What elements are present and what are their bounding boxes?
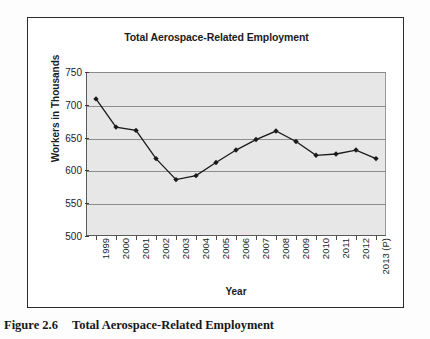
x-tick-label: 2012 <box>360 238 371 259</box>
y-tick-mark <box>85 138 89 139</box>
series-line <box>96 99 376 180</box>
x-tick-mark <box>96 236 97 240</box>
x-tick-mark <box>316 236 317 240</box>
chart-title: Total Aerospace-Related Employment <box>28 31 405 43</box>
y-axis-tick-labels: 500550600650700750 <box>50 72 82 236</box>
x-tick-mark <box>336 236 337 240</box>
figure-caption-text: Total Aerospace-Related Employment <box>72 318 274 332</box>
x-tick-mark <box>376 236 377 240</box>
x-tick-label: 2004 <box>200 238 211 259</box>
y-tick-label: 500 <box>54 231 82 242</box>
x-tick-mark <box>276 236 277 240</box>
data-series-layer <box>86 72 386 236</box>
data-point-marker <box>253 137 258 142</box>
x-tick-label: 2001 <box>140 238 151 259</box>
x-axis-title: Year <box>86 286 386 297</box>
x-tick-label: 2009 <box>300 238 311 259</box>
x-tick-label: 2005 <box>220 238 231 259</box>
figure-caption: Figure 2.6Total Aerospace-Related Employ… <box>4 318 274 333</box>
x-tick-label: 2010 <box>320 238 331 259</box>
y-tick-mark <box>85 170 89 171</box>
x-tick-label: 2011 <box>340 238 351 258</box>
figure-frame: Total Aerospace-Related Employment Worke… <box>27 17 404 308</box>
data-point-marker <box>333 151 338 156</box>
y-tick-mark <box>85 236 89 237</box>
x-tick-mark <box>156 236 157 240</box>
x-tick-mark <box>176 236 177 240</box>
y-tick-label: 550 <box>54 198 82 209</box>
data-point-marker <box>373 156 378 161</box>
x-tick-label: 2008 <box>280 238 291 259</box>
y-tick-label: 700 <box>54 99 82 110</box>
x-tick-mark <box>296 236 297 240</box>
figure-caption-number: Figure 2.6 <box>4 318 58 332</box>
y-tick-mark <box>85 72 89 73</box>
x-tick-label: 2000 <box>120 238 131 259</box>
x-tick-mark <box>356 236 357 240</box>
y-tick-label: 600 <box>54 165 82 176</box>
x-tick-label: 2013 (P) <box>380 238 391 274</box>
x-tick-mark <box>136 236 137 240</box>
x-tick-label: 1999 <box>100 238 111 259</box>
x-tick-mark <box>236 236 237 240</box>
x-tick-label: 2002 <box>160 238 171 259</box>
y-tick-mark <box>85 203 89 204</box>
x-tick-label: 2003 <box>180 238 191 259</box>
x-tick-mark <box>216 236 217 240</box>
y-tick-label: 750 <box>54 67 82 78</box>
x-tick-mark <box>116 236 117 240</box>
x-tick-label: 2007 <box>260 238 271 259</box>
y-tick-mark <box>85 105 89 106</box>
x-tick-label: 2006 <box>240 238 251 259</box>
x-tick-mark <box>196 236 197 240</box>
data-point-marker <box>273 128 278 133</box>
y-tick-label: 650 <box>54 132 82 143</box>
data-point-marker <box>353 147 358 152</box>
x-tick-mark <box>256 236 257 240</box>
